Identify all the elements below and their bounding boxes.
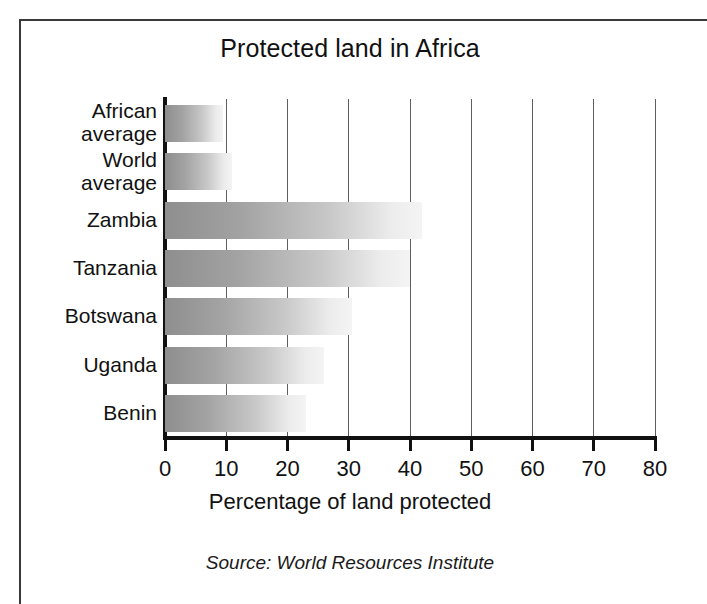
category-label-line: Zambia: [0, 208, 157, 231]
chart-figure: Protected land in Africa 010203040506070…: [0, 0, 707, 604]
x-tick-label-20: 20: [258, 456, 318, 482]
x-tick-30: [347, 440, 350, 451]
category-label-zambia: Zambia: [0, 208, 157, 231]
bar-uganda: [165, 347, 324, 384]
x-tick-20: [286, 440, 289, 451]
category-label-uganda: Uganda: [0, 353, 157, 376]
x-tick-80: [654, 440, 657, 451]
gridline-50: [471, 99, 472, 438]
category-label-african-average: Africanaverage: [0, 99, 157, 145]
gridline-60: [532, 99, 533, 438]
bar-world-average: [165, 153, 232, 190]
category-label-line: African: [0, 99, 157, 122]
category-label-line: World: [0, 148, 157, 171]
x-tick-label-30: 30: [319, 456, 379, 482]
gridline-80: [655, 99, 656, 438]
category-label-line: Tanzania: [0, 256, 157, 279]
x-tick-70: [592, 440, 595, 451]
category-label-line: Benin: [0, 401, 157, 424]
category-label-line: average: [0, 122, 157, 145]
x-tick-label-40: 40: [380, 456, 440, 482]
bar-botswana: [165, 298, 352, 335]
x-axis-label: Percentage of land protected: [20, 489, 680, 515]
x-tick-10: [225, 440, 228, 451]
x-tick-label-10: 10: [196, 456, 256, 482]
category-label-line: average: [0, 171, 157, 194]
x-tick-60: [531, 440, 534, 451]
bar-benin: [165, 395, 306, 432]
category-label-botswana: Botswana: [0, 304, 157, 327]
bar-zambia: [165, 202, 422, 239]
category-label-tanzania: Tanzania: [0, 256, 157, 279]
category-label-line: Uganda: [0, 353, 157, 376]
x-tick-50: [470, 440, 473, 451]
x-tick-label-60: 60: [503, 456, 563, 482]
category-label-line: Botswana: [0, 304, 157, 327]
category-label-world-average: Worldaverage: [0, 148, 157, 194]
x-tick-40: [409, 440, 412, 451]
bar-african-average: [165, 105, 223, 142]
x-tick-label-0: 0: [135, 456, 195, 482]
x-tick-label-70: 70: [564, 456, 624, 482]
x-tick-label-80: 80: [625, 456, 685, 482]
category-label-benin: Benin: [0, 401, 157, 424]
bar-tanzania: [165, 250, 410, 287]
gridline-70: [593, 99, 594, 438]
x-tick-0: [164, 440, 167, 451]
source-note: Source: World Resources Institute: [20, 551, 680, 575]
x-tick-label-50: 50: [441, 456, 501, 482]
